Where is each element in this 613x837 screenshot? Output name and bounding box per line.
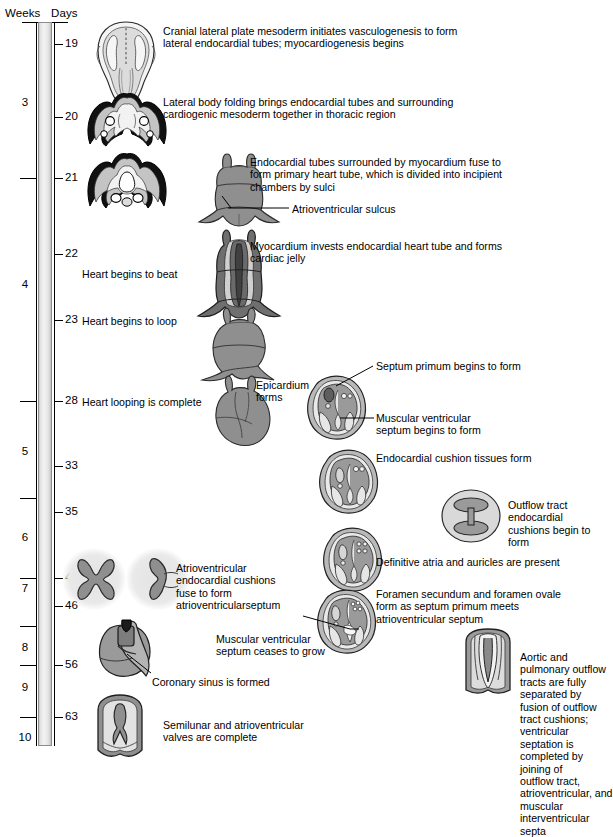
week-label-5: 5 (15, 445, 35, 457)
timeline-bar (38, 22, 52, 746)
annotation-aortic-pulmonary: Aortic and pulmonary outflow tracts are … (520, 651, 613, 837)
week-tick (20, 178, 37, 179)
week-label-10: 10 (15, 731, 35, 743)
day-tick-19 (54, 44, 63, 45)
artwork-fused-tube-section-day21 (82, 150, 172, 212)
annotation-muscular-septum: Muscular ventricular septum begins to fo… (376, 412, 481, 437)
annotation-day19: Cranial lateral plate mesoderm initiates… (163, 25, 457, 50)
week-label-9: 9 (15, 681, 35, 693)
day-label-21: 21 (65, 171, 78, 183)
day-label-28: 28 (65, 394, 78, 406)
week-tick (20, 498, 37, 499)
week-tick (20, 717, 37, 718)
annotation-outflow-tract: Outflow tract endocardial cushions begin… (508, 499, 613, 549)
day-tick-22 (54, 254, 63, 255)
annotation-semilunar-valves: Semilunar and atrioventricular valves ar… (163, 719, 304, 744)
week-tick (20, 401, 37, 402)
artwork-valves-day63 (92, 694, 148, 760)
day-tick-46 (54, 606, 63, 607)
day-label-33: 33 (65, 459, 78, 471)
day-tick-35 (54, 512, 63, 513)
axis-left-rule (36, 22, 37, 746)
day-tick-23 (54, 320, 63, 321)
artwork-av-cushions-day42 (72, 556, 120, 602)
artwork-av-septum-day46 (144, 556, 180, 602)
day-label-19: 19 (65, 37, 78, 49)
artwork-outflow-tract-cushions (440, 488, 502, 544)
annotation-septum-primum: Septum primum begins to form (376, 360, 521, 372)
annotation-heart-loops: Heart begins to loop (82, 315, 177, 327)
day-tick-63 (54, 717, 63, 718)
annotation-endocardial-cushion: Endocardial cushion tissues form (376, 452, 531, 464)
annotation-septum-ceases: Muscular ventricular septum ceases to gr… (216, 633, 325, 658)
week-label-4: 4 (15, 278, 35, 290)
day-label-35: 35 (65, 505, 78, 517)
week-tick (20, 578, 37, 579)
artwork-body-folding-day20 (82, 88, 172, 150)
week-label-8: 8 (15, 641, 35, 653)
week-label-3: 3 (15, 96, 35, 108)
day-tick-21 (54, 178, 63, 179)
annotation-day20: Lateral body folding brings endocardial … (163, 96, 453, 121)
day-label-56: 56 (65, 658, 78, 670)
annotation-av-cushions-fuse: Atrioventricular endocardial cushions fu… (176, 562, 280, 612)
day-label-22: 22 (65, 247, 78, 259)
day-tick-20 (54, 117, 63, 118)
week-label-7: 7 (15, 582, 35, 594)
week-tick (20, 626, 37, 627)
annotation-av-sulcus: Atrioventricular sulcus (292, 203, 396, 215)
days-column-header: Days (51, 7, 78, 19)
artwork-heart-coronary-sinus-day56 (88, 620, 172, 682)
day-label-63: 63 (65, 710, 78, 722)
day-label-23: 23 (65, 313, 78, 325)
weeks-column-header: Weeks (5, 7, 40, 19)
day-label-20: 20 (65, 110, 78, 122)
week-label-6: 6 (15, 531, 35, 543)
annotation-looping-complete: Heart looping is complete (82, 396, 202, 408)
annotation-heart-beats: Heart begins to beat (82, 268, 177, 280)
week-tick (20, 665, 37, 666)
annotation-definitive-atria: Definitive atria and auricles are presen… (376, 556, 560, 568)
axis-right-rule (54, 22, 55, 746)
artwork-outflow-tracts-separated (462, 628, 514, 696)
day-tick-33 (54, 466, 63, 467)
annotation-day22: Myocardium invests endocardial heart tub… (250, 240, 502, 265)
annotation-day21: Endocardial tubes surrounded by myocardi… (250, 156, 502, 193)
annotation-coronary-sinus: Coronary sinus is formed (152, 676, 270, 688)
annotation-epicardium: Epicardium forms (256, 379, 309, 404)
day-tick-56 (54, 665, 63, 666)
annotation-foramen: Foramen secundum and foramen ovale form … (376, 588, 561, 625)
artwork-looping-heart-day23 (198, 306, 284, 384)
day-tick-28 (54, 401, 63, 402)
